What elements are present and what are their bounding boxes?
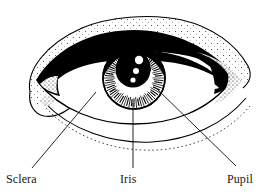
label-pupil: Pupil bbox=[227, 173, 253, 186]
eye-diagram-illustration bbox=[0, 0, 272, 196]
label-iris: Iris bbox=[120, 173, 136, 186]
eye-anatomy-figure: Sclera Iris Pupil bbox=[0, 0, 272, 196]
label-sclera: Sclera bbox=[6, 173, 37, 186]
